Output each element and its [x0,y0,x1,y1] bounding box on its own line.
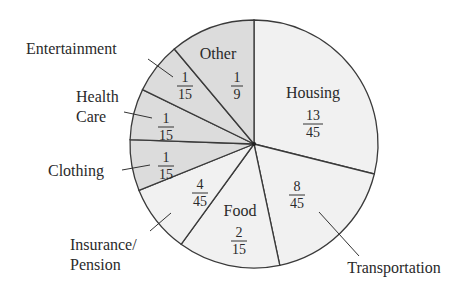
entertainment-label: Entertainment [26,40,117,57]
housing-denominator: 45 [306,125,320,140]
pie-slices [130,20,378,268]
other-denominator: 9 [234,87,241,102]
insurance-label-line1: Insurance/ [70,236,137,253]
food-label: Food [224,202,257,219]
housing-numerator: 13 [306,108,320,123]
insurance-numerator: 4 [197,177,204,192]
center-point [252,142,256,146]
pie-chart: Housing 13 45 8 45 Transportation Food 2… [0,0,476,290]
insurance-denominator: 45 [193,194,207,209]
clothing-denominator: 15 [159,167,173,182]
entertainment-numerator: 1 [182,70,189,85]
health-care-numerator: 1 [163,111,170,126]
transportation-label: Transportation [347,259,441,277]
clothing-numerator: 1 [163,150,170,165]
entertainment-denominator: 15 [178,87,192,102]
transportation-numerator: 8 [294,179,301,194]
health-care-label-line2: Care [76,108,106,125]
food-numerator: 2 [236,225,243,240]
food-denominator: 15 [232,242,246,257]
clothing-label: Clothing [48,162,104,180]
health-care-label-line1: Health [76,88,119,105]
other-numerator: 1 [234,70,241,85]
other-label: Other [200,45,237,62]
health-care-denominator: 15 [159,128,173,143]
housing-label: Housing [286,84,340,102]
insurance-label-line2: Pension [70,256,121,273]
transportation-denominator: 45 [290,196,304,211]
